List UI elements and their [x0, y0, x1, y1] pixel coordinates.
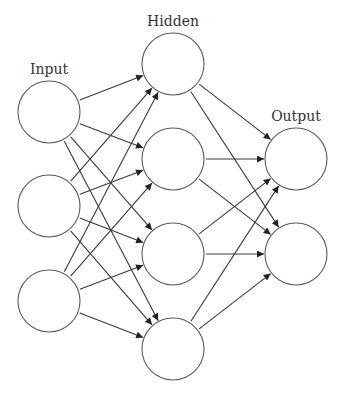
- edge-input1-hidden2: [80, 124, 143, 148]
- hidden-layer: Hidden: [142, 13, 204, 380]
- edge-input1-hidden1: [80, 76, 143, 101]
- input-layer-label: Input: [30, 61, 69, 77]
- input-node-3: [18, 270, 80, 332]
- edge-input3-hidden3: [80, 265, 143, 289]
- output-node-1: [265, 128, 327, 190]
- edge-input2-hidden1: [71, 88, 152, 181]
- input-node-1: [18, 81, 80, 143]
- output-layer: Output: [265, 108, 327, 285]
- hidden-node-2: [142, 128, 204, 190]
- edge-input3-hidden4: [80, 313, 143, 338]
- edge-hidden4-output2: [199, 274, 271, 329]
- input-node-2: [18, 175, 80, 237]
- output-node-2: [265, 223, 327, 285]
- hidden-node-1: [142, 33, 204, 95]
- output-layer-label: Output: [271, 108, 321, 124]
- hidden-node-4: [142, 318, 204, 380]
- neural-network-diagram: Input Hidden Output: [0, 0, 341, 398]
- connections: [64, 76, 278, 338]
- hidden-node-3: [142, 223, 204, 285]
- hidden-layer-label: Hidden: [147, 13, 199, 29]
- edge-input1-hidden3: [71, 137, 152, 230]
- input-layer: Input: [18, 61, 80, 332]
- edge-input3-hidden2: [71, 183, 152, 276]
- edge-hidden1-output1: [199, 84, 271, 139]
